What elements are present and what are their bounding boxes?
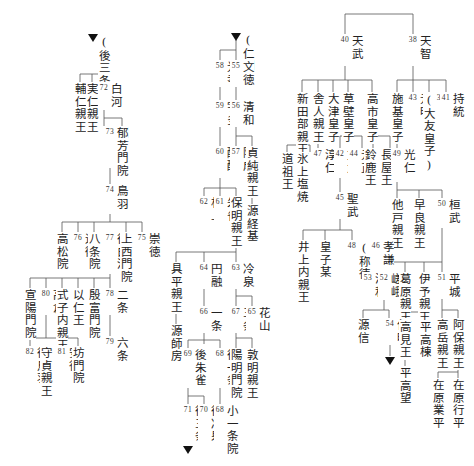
node-shirakawa: 白河72 [98,82,122,109]
node-label: 後朱雀 [193,349,207,387]
reign-number: 68 [214,349,226,358]
reign-number: 69 [182,349,194,358]
node-sanehito: 実仁親王 [86,82,98,134]
node-label: 小一条院 [225,405,239,455]
reign-number: 81 [56,347,68,356]
node-morisada: 守貞親王 [40,346,52,398]
reign-number: 71 [182,405,194,414]
reign-number: 80 [40,289,52,298]
node-label: 陽明門院 [229,349,243,399]
node-label: 清和 [241,101,255,126]
node-label: 式子内親王 [55,289,69,352]
node-label: 高松院 [55,233,69,271]
node-senyomonin: 宣陽門院 [24,288,36,340]
reign-number: 41 [440,93,452,102]
node-label: 二条 [115,289,129,314]
node-takechi: 高市皇子 [366,92,378,144]
node-otsu: 大津皇子 [327,92,339,144]
node-go-suzaku: 後朱雀69 [182,348,206,388]
node-atsuakira: 敦明親王 [246,348,258,400]
node-label: 阿保親王 [451,319,465,369]
node-label: 高岳親王 [435,319,449,369]
node-label: 天智 [418,35,432,60]
node-label: 大津皇子 [326,93,340,143]
node-minamoto-makoto: 源信 [357,318,369,345]
node-label: 殷富門院 [87,289,101,339]
node-toba: 鳥羽74 [104,184,128,211]
node-kazurahara: 葛原親王 [399,272,411,324]
node-sadazumi: 貞純親王 [246,146,258,198]
node-label: 早良親王 [412,199,426,249]
node-montoku: 文徳55 [230,60,254,87]
node-label: 実仁親王 [85,83,99,133]
node-label: 敦明親王 [245,349,259,399]
node-label: 聖武 [345,193,359,218]
reign-number: 60 [214,147,226,156]
reign-number-2: 48 [346,241,358,250]
reign-number: 67 [230,307,242,316]
node-ikuhomonin: 郁芳門院 [116,126,128,178]
node-label: 源信 [356,319,370,344]
node-label: 保明親王 [229,197,243,247]
node-label: 花山 [257,307,271,332]
node-label: 崇徳 [147,233,161,258]
node-label: 円融 [209,263,223,288]
reign-number: 49 [391,149,403,158]
node-inoue: 井上内親王 [297,240,309,305]
node-label: 施基皇子 [390,93,404,143]
node-koshibou: 皇子某 [319,240,331,280]
node-label: 一条 [209,307,223,332]
node-label: 鳥羽 [115,185,129,210]
node-tsunemoto: 源経基 [246,204,258,244]
node-koichijoin: 小一条院68 [214,404,238,456]
node-morofusa: 源師房 [170,324,182,364]
node-yukihira: 在原行平 [452,378,464,430]
node-label: 持統 [451,93,465,118]
node-iyo: 伊予親王 [418,272,430,324]
continuation-arrow-ninmyo [385,357,395,365]
node-tenji: 天智38 [407,34,431,61]
reign-number: 57 [230,147,242,156]
reign-number: 54 [384,319,396,328]
reign-number: 47 [312,149,324,158]
node-label: 以仁王 [71,289,85,327]
reign-number: 45 [334,193,346,202]
node-label: 文徳 [241,61,255,86]
node-nijo: 二条78 [104,288,128,315]
node-rokujo: 六条79 [104,336,128,363]
reign-number: 62 [198,197,210,206]
node-label: 光仁 [402,149,416,174]
reign-number: 53 [362,273,374,282]
node-yasuakira: 保明親王 [230,196,242,248]
node-shomu: 聖武45 [334,192,358,219]
reign-number: 56 [230,101,242,110]
node-shikishi: 式子内親王 [56,288,68,353]
node-bomonin: 坊門院 [72,346,84,386]
node-label: 草壁皇子 [341,93,355,143]
reign-number: 52 [378,273,390,282]
node-label: 坊門院 [71,347,85,385]
node-label: 皇子某 [318,241,332,279]
reign-number: 46 [370,241,382,250]
reign-number: 77 [104,233,116,242]
node-label: 伊予親王 [417,273,431,323]
node-takaoka: 高岳親王 [436,318,448,370]
node-junnin: 淳仁47 [312,148,336,175]
node-label: 八条院 [87,233,101,271]
node-label: 守貞親王 [39,347,53,397]
node-label: 白河 [109,83,123,108]
reign-number: 58 [214,61,226,70]
node-shiki: 施基皇子 [391,92,403,144]
node-label: 六条 [115,337,129,362]
reign-number: 38 [407,35,419,44]
node-jozaimonin: 上西門院 [120,232,132,284]
node-inpumonin: 殷富門院 [88,288,100,340]
reign-number: 43 [407,93,419,102]
node-sawara: 早良親王 [413,198,425,250]
continuation-arrow-ninmyo-ref [231,33,241,41]
node-label: 桓武 [447,199,461,224]
node-label: 源師房 [169,325,183,363]
node-heizei: 平城51 [436,272,460,299]
node-label: 舎人親王 [311,93,325,143]
node-taira-takamochi: 平高望 [399,366,411,406]
